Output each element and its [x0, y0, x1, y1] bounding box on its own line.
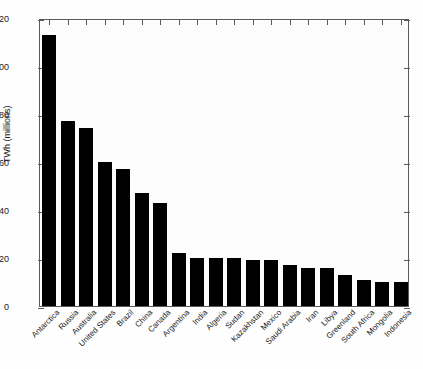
- plot-area: [39, 19, 409, 307]
- bar: [227, 258, 241, 306]
- bar: [246, 260, 260, 306]
- bar: [320, 268, 334, 306]
- bar: [116, 169, 130, 306]
- y-tick-label: 100: [0, 62, 9, 72]
- bar: [42, 35, 56, 306]
- y-tick-label: 120: [0, 14, 9, 24]
- bar: [153, 203, 167, 306]
- bar: [79, 128, 93, 306]
- bar: [264, 260, 278, 306]
- bar: [301, 268, 315, 306]
- bar: [338, 275, 352, 306]
- bar: [135, 193, 149, 306]
- bar-chart-figure: TWh (millions) 020406080100120 Antarctic…: [0, 0, 423, 369]
- y-tick-label: 20: [0, 254, 9, 264]
- bars-group: [40, 20, 408, 306]
- bar: [357, 280, 371, 306]
- y-tick-label: 80: [0, 110, 9, 120]
- x-axis-tick-labels: AntarcticaRussiaAustraliaUnited StatesBr…: [39, 308, 409, 368]
- bar: [394, 282, 408, 306]
- y-tick-label: 40: [0, 206, 9, 216]
- bar: [98, 162, 112, 306]
- bar: [190, 258, 204, 306]
- y-tick-label: 0: [0, 302, 9, 312]
- bar: [375, 282, 389, 306]
- bar: [61, 121, 75, 306]
- bar: [172, 253, 186, 306]
- bar: [209, 258, 223, 306]
- y-tick-label: 60: [0, 158, 9, 168]
- bar: [283, 265, 297, 306]
